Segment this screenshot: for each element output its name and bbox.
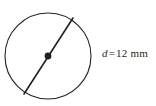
diameter-value: 12 xyxy=(116,47,127,59)
diameter-variable: d xyxy=(102,47,108,59)
diameter-label: d=12 mm xyxy=(102,47,148,59)
center-dot xyxy=(45,53,52,60)
circle-diagram-figure: d=12 mm xyxy=(0,0,156,106)
equals-sign: = xyxy=(108,47,116,59)
diameter-unit: mm xyxy=(130,47,148,59)
